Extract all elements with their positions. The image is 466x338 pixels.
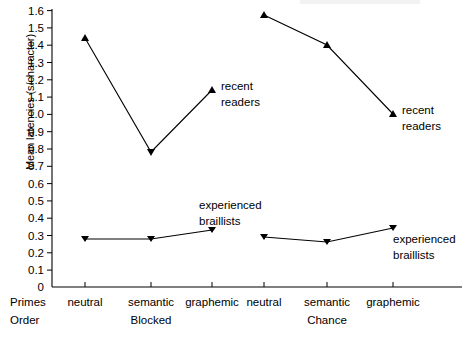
y-tick-label: 1.0	[28, 108, 44, 120]
data-point-marker	[81, 34, 89, 41]
y-tick-label: 0.3	[28, 230, 44, 242]
annotation-line2: readers	[402, 120, 441, 132]
y-tick-label: 0.9	[28, 126, 44, 138]
x-axis-category-labels: neutral semantic graphemic neutral seman…	[67, 296, 420, 308]
y-tick-label: 0.5	[28, 195, 44, 207]
data-point-marker	[147, 149, 155, 156]
annotation-recent-readers-chance: recent readers	[402, 104, 441, 132]
group-label-chance: Chance	[307, 314, 347, 326]
corner-label-primes: Primes	[10, 296, 46, 308]
x-axis-ticks	[85, 282, 393, 287]
series-experienced-braillists-blocked	[81, 227, 216, 242]
group-label-blocked: Blocked	[131, 314, 172, 326]
y-tick-label: 0.4	[28, 212, 45, 224]
caption-remnant	[300, 0, 420, 4]
y-tick-label: 0.2	[28, 247, 44, 259]
data-point-marker	[208, 86, 216, 93]
x-label-blocked-neutral: neutral	[67, 296, 102, 308]
annotation-line2: braillists	[199, 215, 241, 227]
annotation-experienced-braillists-chance: experienced braillists	[393, 233, 456, 261]
y-tick-label: 1.4	[28, 39, 45, 51]
recent-readers-line-blocked	[85, 38, 212, 152]
chart-figure: Mean latencies (s/character)	[0, 0, 466, 338]
annotation-line1: experienced	[199, 199, 262, 211]
annotation-line1: recent	[221, 80, 254, 92]
y-tick-label: 0.6	[28, 178, 44, 190]
data-point-marker	[389, 225, 397, 231]
annotation-line2: readers	[221, 96, 260, 108]
y-tick-label: 0.7	[28, 160, 44, 172]
y-tick-label: 1.6	[28, 5, 44, 17]
series-experienced-braillists-chance	[260, 225, 397, 245]
data-point-marker	[260, 11, 268, 18]
annotation-experienced-braillists-blocked: experienced braillists	[199, 199, 262, 227]
y-tick-label: 0.8	[28, 143, 44, 155]
annotation-line1: recent	[402, 104, 435, 116]
annotation-line2: braillists	[393, 249, 435, 261]
recent-readers-line-chance	[264, 15, 393, 114]
x-label-chance-semantic: semantic	[304, 296, 350, 308]
data-point-marker	[323, 41, 331, 48]
y-axis-tick-labels: 1.6 1.5 1.4 1.3 1.2 1.1 1.0 0.9 0.8 0.7 …	[28, 5, 45, 294]
y-tick-label: 1.5	[28, 22, 44, 34]
y-tick-label: 0.1	[28, 264, 44, 276]
y-axis-ticks	[47, 11, 52, 271]
x-axis-corner-labels: Primes Order	[10, 296, 46, 326]
x-label-chance-graphemic: graphemic	[366, 296, 420, 308]
x-label-blocked-graphemic: graphemic	[185, 296, 239, 308]
y-tick-label: 0	[38, 281, 44, 293]
series-recent-readers-chance	[260, 11, 397, 117]
x-label-chance-neutral: neutral	[246, 296, 281, 308]
x-label-blocked-semantic: semantic	[128, 296, 174, 308]
y-tick-label: 1.2	[28, 74, 44, 86]
annotation-line1: experienced	[393, 233, 456, 245]
x-axis-group-labels: Blocked Chance	[131, 314, 347, 326]
corner-label-order: Order	[10, 314, 40, 326]
line-chart-canvas: 1.6 1.5 1.4 1.3 1.2 1.1 1.0 0.9 0.8 0.7 …	[0, 0, 466, 338]
y-tick-label: 1.3	[28, 57, 44, 69]
y-tick-label: 1.1	[28, 91, 44, 103]
annotation-recent-readers-blocked: recent readers	[221, 80, 260, 108]
series-recent-readers-blocked	[81, 34, 216, 156]
